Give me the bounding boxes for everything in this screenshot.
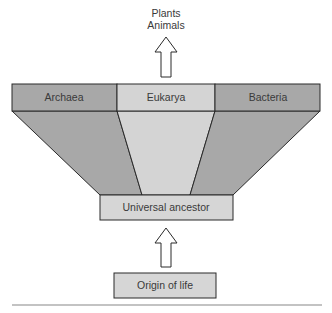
archaea-label: Archaea bbox=[44, 91, 83, 103]
universal-ancestor-label: Universal ancestor bbox=[123, 201, 210, 213]
domain-bacteria: Bacteria bbox=[215, 84, 320, 111]
bacteria-label: Bacteria bbox=[249, 91, 288, 103]
domain-eukarya: Eukarya bbox=[117, 84, 215, 111]
animals-label: Animals bbox=[147, 19, 184, 31]
universal-ancestor-box: Universal ancestor bbox=[100, 195, 233, 220]
domain-archaea: Archaea bbox=[12, 84, 117, 111]
plants-label: Plants bbox=[151, 7, 180, 19]
origin-of-life-box: Origin of life bbox=[114, 273, 216, 298]
up-arrow-icon bbox=[155, 228, 177, 267]
tree-of-life-diagram: Plants Animals Archaea Eukarya Bacteria … bbox=[0, 0, 332, 313]
up-arrow-icon bbox=[155, 37, 177, 77]
origin-of-life-label: Origin of life bbox=[137, 279, 193, 291]
eukarya-label: Eukarya bbox=[147, 91, 186, 103]
